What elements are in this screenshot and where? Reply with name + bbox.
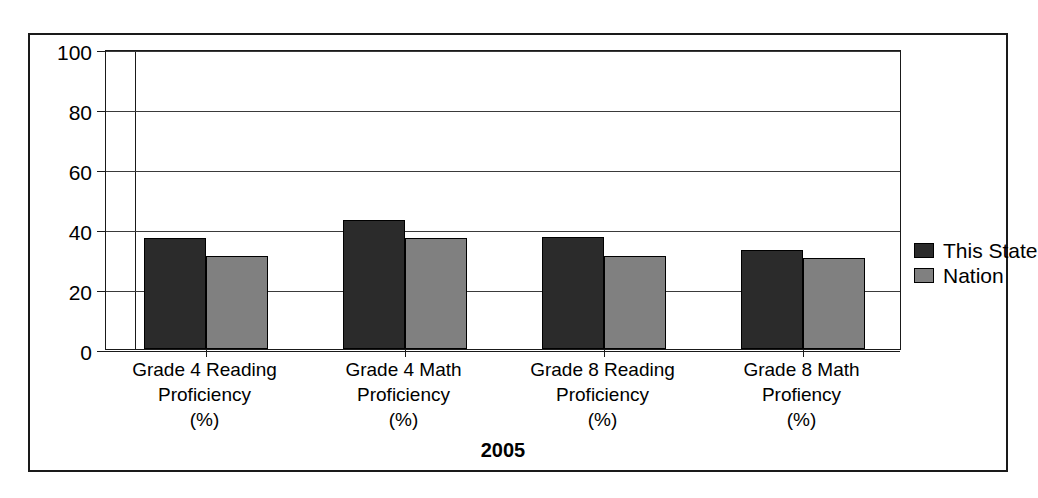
category-label-line: (%) <box>702 407 901 432</box>
category-tick-3 <box>604 349 605 357</box>
bars-layer <box>106 51 900 349</box>
plot-area: 100806040200 <box>105 50 901 350</box>
category-label-line: Grade 4 Reading <box>105 357 304 382</box>
y-tick-label-40: 40 <box>69 222 106 243</box>
category-label-line: (%) <box>503 407 702 432</box>
bar-3-this-state <box>542 237 604 350</box>
legend-label: This State <box>943 240 1038 261</box>
category-label-line: Proficiency <box>105 382 304 407</box>
legend-swatch-icon <box>914 243 934 258</box>
bar-2-nation <box>405 238 467 349</box>
bar-group-4 <box>703 51 902 349</box>
category-tick-1 <box>206 349 207 357</box>
category-label-4: Grade 8 MathProfiency(%) <box>702 357 901 432</box>
legend-swatch-icon <box>914 268 934 283</box>
category-axis-labels: Grade 4 ReadingProficiency(%)Grade 4 Mat… <box>105 357 901 437</box>
legend-item-this-state[interactable]: This State <box>914 240 1038 261</box>
bar-4-nation <box>803 258 865 350</box>
category-label-1: Grade 4 ReadingProficiency(%) <box>105 357 304 432</box>
chart-legend: This StateNation <box>914 240 1038 290</box>
category-label-line: Proficiency <box>503 382 702 407</box>
category-label-2: Grade 4 MathProficiency(%) <box>304 357 503 432</box>
bar-1-this-state <box>144 238 206 349</box>
category-label-line: (%) <box>304 407 503 432</box>
y-tick-label-80: 80 <box>69 102 106 123</box>
bar-group-3 <box>504 51 703 349</box>
bar-3-nation <box>604 256 666 349</box>
y-tick-label-20: 20 <box>69 282 106 303</box>
legend-item-nation[interactable]: Nation <box>914 265 1038 286</box>
legend-label: Nation <box>943 265 1004 286</box>
bar-group-1 <box>106 51 305 349</box>
category-label-line: Grade 4 Math <box>304 357 503 382</box>
bar-1-nation <box>206 256 268 349</box>
bar-4-this-state <box>741 250 803 349</box>
category-label-line: Grade 8 Reading <box>503 357 702 382</box>
figure-border: 100806040200 Grade 4 ReadingProficiency(… <box>28 33 1008 472</box>
category-tick-4 <box>803 349 804 357</box>
x-axis-title: 2005 <box>105 439 901 462</box>
bar-2-this-state <box>343 220 405 349</box>
gridline-0: 0 <box>106 351 900 352</box>
y-tick-label-100: 100 <box>57 42 106 63</box>
category-label-line: (%) <box>105 407 304 432</box>
category-label-3: Grade 8 ReadingProficiency(%) <box>503 357 702 432</box>
category-label-line: Proficiency <box>304 382 503 407</box>
category-tick-2 <box>405 349 406 357</box>
category-label-line: Grade 8 Math <box>702 357 901 382</box>
category-label-line: Profiency <box>702 382 901 407</box>
bar-group-2 <box>305 51 504 349</box>
y-tick-label-60: 60 <box>69 162 106 183</box>
y-tick-label-0: 0 <box>80 342 106 363</box>
